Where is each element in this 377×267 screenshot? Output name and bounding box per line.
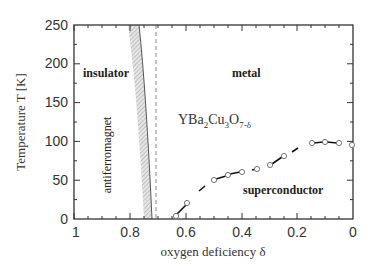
antiferromagnet-label: antiferromagnet	[100, 116, 114, 193]
x-tick-label: 1	[72, 224, 80, 240]
phase-diagram-chart: 1 0.8 0.6 0.4 0.2 0 0 50 100 150 200 250…	[0, 0, 377, 267]
x-tick-label: 0.2	[287, 224, 307, 240]
insulator-label: insulator	[83, 66, 130, 80]
x-axis-title: oxygen deficiency δ	[160, 244, 265, 259]
y-axis-title: Temperature T [K]	[13, 73, 28, 171]
superconductor-label: superconductor	[243, 183, 324, 197]
x-tick-labels: 1 0.8 0.6 0.4 0.2 0	[72, 224, 357, 240]
tc-data-markers	[173, 139, 354, 218]
y-tick-labels: 0 50 100 150 200 250	[45, 17, 69, 227]
y-tick-label: 250	[45, 17, 69, 33]
y-tick-label: 50	[52, 172, 68, 188]
antiferromagnet-boundary-band	[128, 25, 152, 219]
compound-formula: YBa2Cu3O7-δ	[178, 112, 251, 130]
metal-label: metal	[232, 66, 261, 80]
y-tick-label: 100	[45, 133, 69, 149]
y-tick-label: 0	[60, 211, 68, 227]
y-tick-label: 150	[45, 94, 69, 110]
x-tick-label: 0.4	[232, 224, 252, 240]
x-tick-label: 0.8	[120, 224, 140, 240]
x-tick-label: 0	[349, 224, 357, 240]
y-tick-label: 200	[45, 55, 69, 71]
x-tick-label: 0.6	[176, 224, 196, 240]
tc-connecting-segments	[177, 142, 337, 214]
